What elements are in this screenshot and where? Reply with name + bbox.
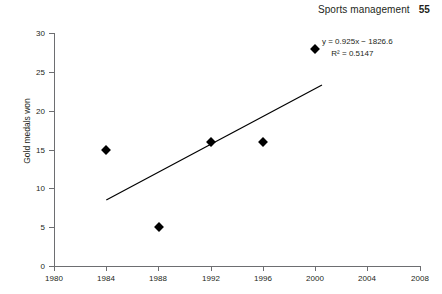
header-page-number: 55 [419,4,430,15]
scatter-chart-figure: Gold medals won 0 5 10 15 20 25 30 1980 … [0,22,442,294]
regression-equation: y = 0.925x − 1826.6 [322,36,393,48]
trendline [0,22,442,294]
plot-area: Gold medals won 0 5 10 15 20 25 30 1980 … [0,22,442,294]
page-header: Sports management 55 [318,4,430,15]
header-book-title: Sports management [318,4,410,15]
regression-annotation: y = 0.925x − 1826.6 R² = 0.5147 [322,36,393,59]
regression-r-squared: R² = 0.5147 [322,48,393,60]
